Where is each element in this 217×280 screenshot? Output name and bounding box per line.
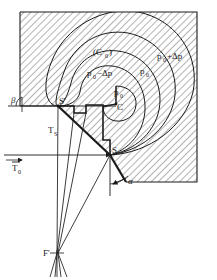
label-p-plus-tail: +Δp [167,51,183,61]
ray-from-notch-2 [58,113,86,253]
label-angle-beta: β [10,95,16,105]
label-p-minus-sub: 0 [93,74,96,80]
label-tension-s: T S [48,125,57,137]
label-p-minus: p [87,68,92,78]
label-tension-zero: T 0 [12,162,21,175]
label-angle-alpha: α [128,176,133,186]
label-p-inner-sub: 0 [120,93,123,99]
label-p-nominal: p [140,66,145,76]
label-p-nominal-sub: 0 [146,72,149,78]
label-c0-close: ) [109,47,112,57]
label-ts-sub: S [54,131,57,137]
label-c0-sub: 0 [105,53,108,59]
label-p-plus: p [157,51,162,61]
ray-from-notch-1 [57,113,74,253]
label-t0-sub: 0 [18,169,21,175]
label-center-c: C [117,102,123,112]
hatched-body-region [20,12,197,182]
body-hatch-fill [20,12,197,182]
label-point-s-prime: S' [59,96,66,106]
ray-from-s [58,155,110,253]
ray-from-s-prime [57,106,58,253]
label-p-minus-tail: −Δp [97,68,113,78]
figure-root: (C 0 ) p 0 −Δp p 0 p 0 +Δp p 0 C S' S T … [0,0,217,280]
alpha-angle-arrow [113,178,126,184]
label-p-inner: p [114,87,119,97]
label-focus-f-prime: F' [43,248,50,258]
label-c0-open: (C [93,47,102,57]
label-point-s: S [112,145,117,155]
diagram-canvas: (C 0 ) p 0 −Δp p 0 p 0 +Δp p 0 C S' S T … [0,0,217,280]
label-p-plus-sub: 0 [163,57,166,63]
